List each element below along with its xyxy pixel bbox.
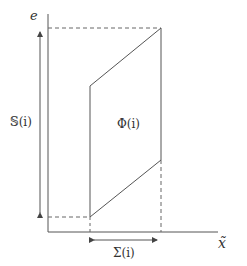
vertical-span-label: 𝕊(i): [10, 115, 32, 129]
region-label: Φ(i): [117, 117, 140, 131]
horizontal-span-label: Σ(i): [113, 246, 135, 260]
diagram-canvas: e x̃ 𝕊(i) Φ(i) Σ(i): [0, 0, 247, 266]
x-axis-label: x̃: [218, 235, 226, 251]
y-axis-label: e: [30, 8, 38, 23]
